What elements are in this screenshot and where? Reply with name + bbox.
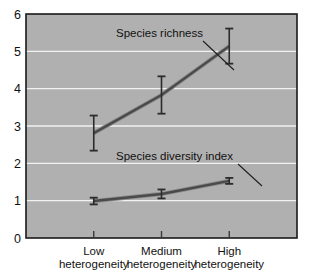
y-tick-label-5: 5	[14, 45, 21, 59]
x-tick-label-2-line-0: High	[217, 245, 241, 257]
y-tick-label-6: 6	[14, 8, 21, 22]
x-tick-label-2-line-1: heterogeneity	[194, 258, 264, 270]
y-tick-label-1: 1	[14, 194, 21, 208]
chart-root: 0123456 LowheterogeneityMediumheterogene…	[0, 0, 312, 278]
annotation-label-1: Species richness	[116, 27, 203, 39]
y-tick-label-2: 2	[14, 157, 21, 171]
y-axis-tick-labels: 0123456	[14, 8, 21, 246]
x-tick-label-0-line-1: heterogeneity	[59, 258, 129, 270]
y-tick-label-3: 3	[14, 120, 21, 134]
annotation-label-2: Species diversity index	[116, 150, 233, 162]
x-axis-tick-labels: LowheterogeneityMediumheterogeneityHighh…	[59, 245, 264, 270]
x-tick-label-1-line-0: Medium	[141, 245, 182, 257]
y-tick-label-0: 0	[14, 232, 21, 246]
y-tick-label-4: 4	[14, 82, 21, 96]
line-chart-figure: 0123456 LowheterogeneityMediumheterogene…	[0, 0, 312, 278]
x-tick-label-0-line-0: Low	[83, 245, 105, 257]
x-tick-label-1-line-1: heterogeneity	[127, 258, 197, 270]
